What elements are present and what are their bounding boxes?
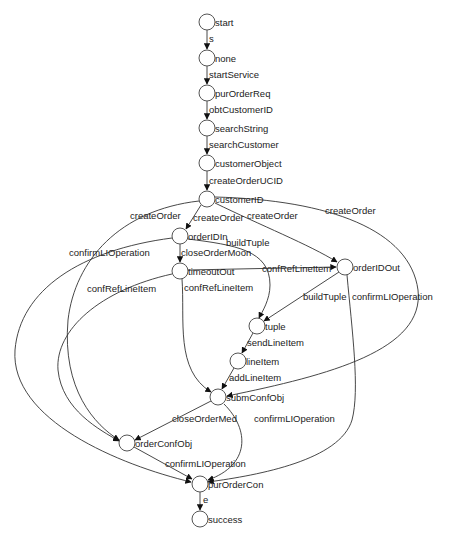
edge-label: confirmLIOperation — [254, 413, 335, 424]
state-circle-icon[interactable] — [337, 259, 353, 275]
state-circle-icon[interactable] — [199, 14, 215, 30]
state-circle-icon[interactable] — [199, 120, 215, 136]
state-circle-icon[interactable] — [199, 191, 215, 207]
edge-label: createOrderUCID — [209, 175, 283, 186]
edge-label: confRefLineItem — [184, 282, 253, 293]
edge-label: createOrder — [193, 212, 244, 223]
nodes-layer: startnonepurOrderReqsearchStringcustomer… — [119, 14, 400, 527]
edge-label: confRefLineItem — [262, 263, 331, 274]
node-label: lineItem — [246, 356, 279, 367]
node-label: orderIDOut — [353, 262, 400, 273]
edge-label: startService — [209, 69, 259, 80]
node-submConfObj[interactable]: submConfObj — [210, 389, 284, 405]
state-circle-icon[interactable] — [192, 476, 208, 492]
node-label: customerID — [215, 194, 264, 205]
node-label: orderIDIn — [188, 231, 228, 242]
node-searchString[interactable]: searchString — [199, 120, 268, 136]
edge-label: createOrder — [325, 205, 376, 216]
node-success[interactable]: success — [192, 511, 243, 527]
node-label: orderConfObj — [135, 438, 192, 449]
edge-label: closeOrderMoon — [181, 247, 251, 258]
node-label: searchString — [215, 123, 268, 134]
node-label: start — [215, 17, 234, 28]
node-label: purOrderReq — [215, 88, 270, 99]
edge-label: buildTuple — [303, 291, 346, 302]
state-circle-icon[interactable] — [199, 50, 215, 66]
node-none[interactable]: none — [199, 50, 236, 66]
node-label: success — [208, 514, 243, 525]
state-circle-icon[interactable] — [172, 228, 188, 244]
node-label: customerObject — [215, 158, 282, 169]
edge-label: confirmLIOperation — [352, 291, 433, 302]
edge-label: confirmLIOperation — [69, 247, 150, 258]
edge-label: createOrder — [247, 210, 298, 221]
node-label: timeoutOut — [188, 266, 235, 277]
node-label: tuple — [265, 321, 286, 332]
node-label: none — [215, 53, 236, 64]
node-orderIDIn[interactable]: orderIDIn — [172, 228, 228, 244]
edge-label: addLineItem — [229, 372, 281, 383]
node-start[interactable]: start — [199, 14, 234, 30]
node-label: submConfObj — [226, 392, 284, 403]
edge-label: closeOrderMed — [172, 413, 237, 424]
state-circle-icon[interactable] — [199, 85, 215, 101]
edge-label: e — [203, 494, 208, 505]
edge-label: sendLineItem — [247, 337, 304, 348]
state-circle-icon[interactable] — [230, 353, 246, 369]
state-graph-canvas: sstartServiceobtCustomerIDsearchCustomer… — [0, 0, 452, 540]
state-circle-icon[interactable] — [119, 435, 135, 451]
node-orderIDOut[interactable]: orderIDOut — [337, 259, 400, 275]
state-circle-icon[interactable] — [199, 155, 215, 171]
edge-label: createOrder — [130, 210, 181, 221]
edge-timeoutOut-to-orderConfObj — [58, 274, 172, 441]
edge-label: buildTuple — [226, 237, 269, 248]
edge-label: confirmLIOperation — [165, 458, 246, 469]
state-circle-icon[interactable] — [210, 389, 226, 405]
node-purOrderReq[interactable]: purOrderReq — [199, 85, 270, 101]
node-label: purOrderCon — [208, 479, 263, 490]
node-purOrderCon[interactable]: purOrderCon — [192, 476, 263, 492]
node-timeoutOut[interactable]: timeoutOut — [172, 263, 235, 279]
node-orderConfObj[interactable]: orderConfObj — [119, 435, 192, 451]
node-tuple[interactable]: tuple — [249, 318, 286, 334]
edge-label: obtCustomerID — [209, 104, 273, 115]
state-circle-icon[interactable] — [249, 318, 265, 334]
node-customerObject[interactable]: customerObject — [199, 155, 282, 171]
edge-timeoutOut-to-submConfObj — [182, 279, 211, 392]
node-customerID[interactable]: customerID — [199, 191, 264, 207]
state-circle-icon[interactable] — [172, 263, 188, 279]
state-circle-icon[interactable] — [192, 511, 208, 527]
edge-label: confRefLineItem — [87, 283, 156, 294]
node-lineItem[interactable]: lineItem — [230, 353, 279, 369]
edge-label: s — [209, 33, 214, 44]
edge-label: searchCustomer — [209, 139, 279, 150]
